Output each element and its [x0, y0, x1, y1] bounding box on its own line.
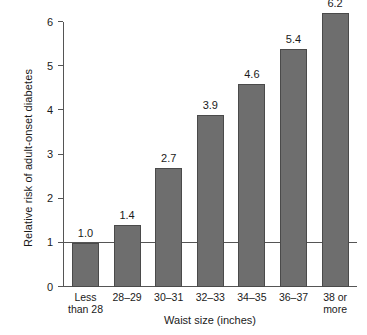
bar-value-label: 4.6 [244, 69, 259, 80]
relative-risk-bar-chart: Relative risk of adult-onset diabetes 01… [0, 0, 367, 335]
y-axis-title: Relative risk of adult-onset diabetes [22, 53, 34, 263]
x-axis-title: Waist size (inches) [63, 314, 357, 326]
y-axis-tick-label: 4 [47, 104, 53, 115]
bar[interactable] [197, 115, 224, 287]
bar[interactable] [238, 84, 265, 287]
bar-value-label: 1.4 [119, 210, 134, 221]
bar[interactable] [114, 225, 141, 287]
bar[interactable] [155, 168, 182, 287]
y-axis-tick-label: 0 [47, 281, 53, 292]
bar-group: 6.2 [322, 22, 349, 287]
bar[interactable] [280, 49, 307, 288]
bar-value-label: 2.7 [161, 153, 176, 164]
bar-group: 1.0 [72, 22, 99, 287]
x-axis-category-label: 38 ormore [306, 291, 364, 315]
y-axis-tick-label: 2 [47, 193, 53, 204]
bar-group: 1.4 [114, 22, 141, 287]
y-axis-tick-label: 3 [47, 149, 53, 160]
y-axis-tick-label: 5 [47, 60, 53, 71]
bars-layer: 1.01.42.73.94.65.46.2 [63, 22, 357, 287]
bar-value-label: 5.4 [286, 34, 301, 45]
bar-group: 4.6 [238, 22, 265, 287]
bar-group: 3.9 [197, 22, 224, 287]
bar[interactable] [322, 13, 349, 287]
bar-value-label: 6.2 [327, 0, 342, 9]
y-axis-tick-label: 1 [47, 237, 53, 248]
bar[interactable] [72, 243, 99, 287]
bar-value-label: 1.0 [78, 228, 93, 239]
bar-group: 2.7 [155, 22, 182, 287]
plot-area: 0123456 1.01.42.73.94.65.46.2 [63, 22, 357, 287]
y-axis-tick-label: 6 [47, 16, 53, 27]
bar-value-label: 3.9 [203, 100, 218, 111]
bar-group: 5.4 [280, 22, 307, 287]
